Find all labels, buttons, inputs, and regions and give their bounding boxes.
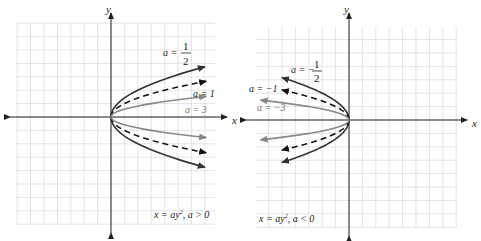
x-axis-label-left: x [231,114,237,126]
x-axis-label-right: x [471,117,477,129]
curve-a-neg1-upper [282,90,349,120]
curve-label-a-neg-1: a = −1 [249,83,278,94]
label-denominator: 2 [183,55,189,67]
curve-label-a-half: a = 1 2 [163,40,191,67]
label-numerator: 1 [183,40,189,52]
y-axis-label-right: y [343,3,349,15]
curve-label-a-1: a = 1 [193,88,215,99]
eq-cond: , a > 0 [183,209,210,220]
y-axis-label-left: y [105,3,111,15]
curve-label-a-neg-3: a = −3 [257,102,286,113]
label-prefix: a = [163,47,177,58]
eq-main: x = ay [258,213,285,224]
label-numerator: 1 [314,58,320,70]
svg-text:x = ay2, a > 0: x = ay2, a > 0 [153,209,209,220]
eq-cond: , a < 0 [288,213,315,224]
curve-a-1-lower [111,117,206,153]
panel-positive: y x a = 1 2 a = 1 a = 3 x = ay2, a > 0 [10,3,237,233]
curve-a-3-lower [111,117,206,138]
eq-main: x = ay [153,209,180,220]
curve-a-neg1-lower [282,120,349,150]
equation-label-left: x = ay2, a > 0 [153,209,209,220]
svg-text:x = ay2, a < 0: x = ay2, a < 0 [258,213,314,224]
grid-right [256,27,457,228]
label-denominator: 2 [314,72,320,84]
curve-label-a-3: a = 3 [185,104,207,115]
label-prefix: a = − [291,64,315,75]
parabola-figure: y x a = 1 2 a = 1 a = 3 x = ay2, a > 0 y… [0,0,481,241]
panel-negative: y x a = − 1 2 a = −1 a = −3 x = ay2, a <… [246,3,477,236]
equation-label-right: x = ay2, a < 0 [258,213,314,224]
